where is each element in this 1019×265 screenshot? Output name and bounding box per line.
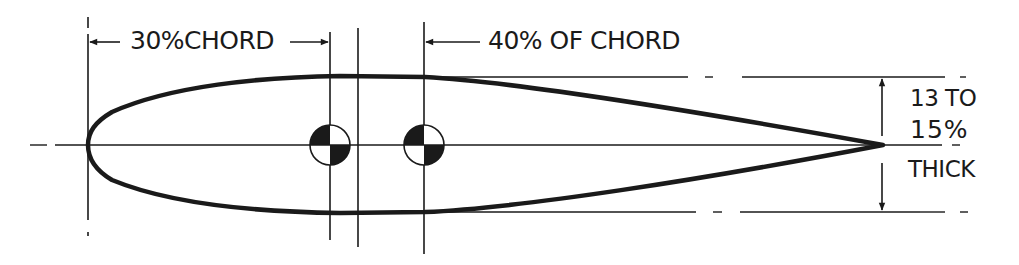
label-40-percent-chord: 40% OF CHORD — [488, 26, 680, 55]
cg-symbol-aft — [404, 125, 444, 165]
cg-symbol-forward — [310, 125, 350, 165]
label-30-percent-chord: 30%CHORD — [130, 26, 274, 55]
label-thickness-line2: 15% — [910, 115, 969, 144]
label-thickness-line3: THICK — [908, 156, 975, 182]
label-thickness-line1: 13 TO — [910, 85, 976, 111]
